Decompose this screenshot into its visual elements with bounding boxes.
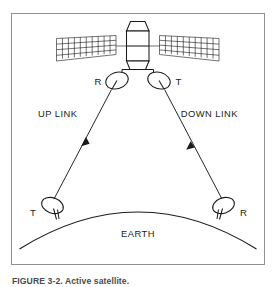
label-earth: EARTH	[121, 228, 155, 239]
label-ground-transmit: T	[30, 207, 36, 218]
satellite-receive-dish-icon	[104, 69, 131, 92]
satellite-link-diagram: R T EARTH T R UP	[11, 13, 265, 265]
figure-container: R T EARTH T R UP	[0, 0, 280, 287]
satellite-body-icon	[127, 22, 150, 70]
satellite-transmit-dish-icon	[146, 69, 173, 92]
ground-receive-dish-icon	[210, 195, 236, 220]
solar-panel-left-icon	[57, 36, 117, 62]
figure-caption: FIGURE 3-2. Active satellite.	[12, 276, 262, 287]
label-satellite-receive: R	[95, 76, 102, 87]
ground-transmit-dish-icon	[39, 195, 65, 220]
label-up-link: UP LINK	[38, 108, 78, 119]
label-ground-receive: R	[240, 207, 247, 218]
label-down-link: DOWN LINK	[181, 108, 238, 119]
uplink-beam	[54, 90, 112, 200]
downlink-beam	[165, 90, 223, 200]
label-satellite-transmit: T	[176, 76, 182, 87]
uplink-arrowhead	[81, 137, 89, 146]
solar-panel-right-icon	[160, 36, 220, 62]
